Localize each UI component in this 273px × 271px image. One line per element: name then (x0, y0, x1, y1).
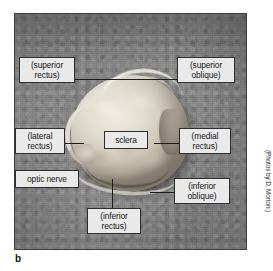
figure-part-label: b (15, 253, 21, 264)
callout-inferior-rectus: (inferior rectus) (87, 208, 141, 234)
specimen-photograph: (superior rectus) (superior oblique) (la… (14, 13, 247, 250)
leader-line-inferior-oblique (150, 192, 176, 193)
callout-sclera: sclera (104, 131, 148, 149)
figure-b-eyeball-muscles: (superior rectus) (superior oblique) (la… (0, 0, 273, 271)
leader-line-lateral-rectus (62, 143, 84, 144)
callout-lateral-rectus: (lateral rectus) (15, 128, 65, 154)
callout-superior-rectus: (superior rectus) (19, 57, 75, 83)
callout-superior-oblique: (superior oblique) (177, 57, 235, 83)
leader-line-inferior-rectus (112, 179, 113, 209)
callout-medial-rectus: (medial rectus) (179, 128, 231, 154)
photo-credit: (Photos by D. Morton.) (265, 150, 272, 212)
callout-optic-nerve: optic nerve (15, 170, 79, 188)
leader-line-superior-rectus-to-superior-oblique (75, 79, 180, 80)
leader-line-medial-rectus (154, 143, 180, 144)
callout-inferior-oblique: (inferior oblique) (174, 178, 230, 204)
